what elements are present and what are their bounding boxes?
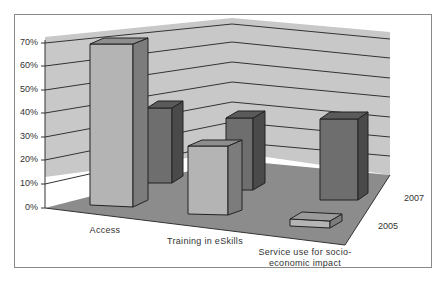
y-tick-label: 40% <box>8 107 38 117</box>
z-series-label: 2007 <box>404 193 424 203</box>
x-category-label: Training in eSkills <box>150 236 260 246</box>
y-ticks <box>41 43 45 208</box>
y-tick-label: 10% <box>8 178 38 188</box>
y-tick-label: 50% <box>8 84 38 94</box>
y-tick-label: 0% <box>8 202 38 212</box>
y-tick-label: 70% <box>8 37 38 47</box>
y-tick-label: 60% <box>8 60 38 70</box>
x-category-label: Service use for socio- <box>250 247 360 257</box>
x-category-label-line2: economic impact <box>250 258 360 268</box>
x-category-label: Access <box>70 225 140 235</box>
y-tick-label: 20% <box>8 154 38 164</box>
z-series-label: 2005 <box>378 221 398 231</box>
y-tick-label: 30% <box>8 131 38 141</box>
